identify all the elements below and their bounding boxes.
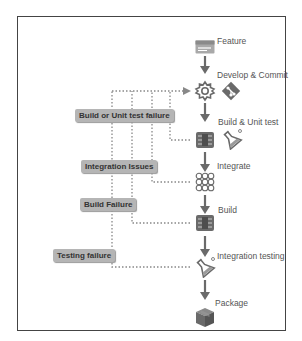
feature-card-icon [195,40,215,54]
step-label-build: Build [218,205,237,215]
feedback-label-integration-issues: Integration Issues [81,160,157,173]
feedback-label-build-failure: Build Failure [80,198,136,211]
integration-grid-icon [195,172,215,192]
package-box-icon [194,306,216,328]
step-label-integrate: Integrate [217,161,251,171]
git-icon [221,81,241,101]
step-label-feature: Feature [217,36,246,46]
test-flask-icon [194,256,216,278]
feedback-label-build-unit-test-failure: Build or Unit test failure [75,109,174,122]
step-label-package: Package [215,298,248,308]
gear-icon [194,80,216,102]
build-server-icon [195,213,215,233]
feedback-label-testing-failure: Testing failure [53,249,115,262]
step-label-integration-testing: Integration testing [217,251,285,261]
build-server-icon [195,130,215,150]
test-flask-icon [221,128,243,150]
step-label-develop-commit: Develop & Commit [217,70,288,80]
step-label-build-unit-test: Build & Unit test [218,117,278,127]
